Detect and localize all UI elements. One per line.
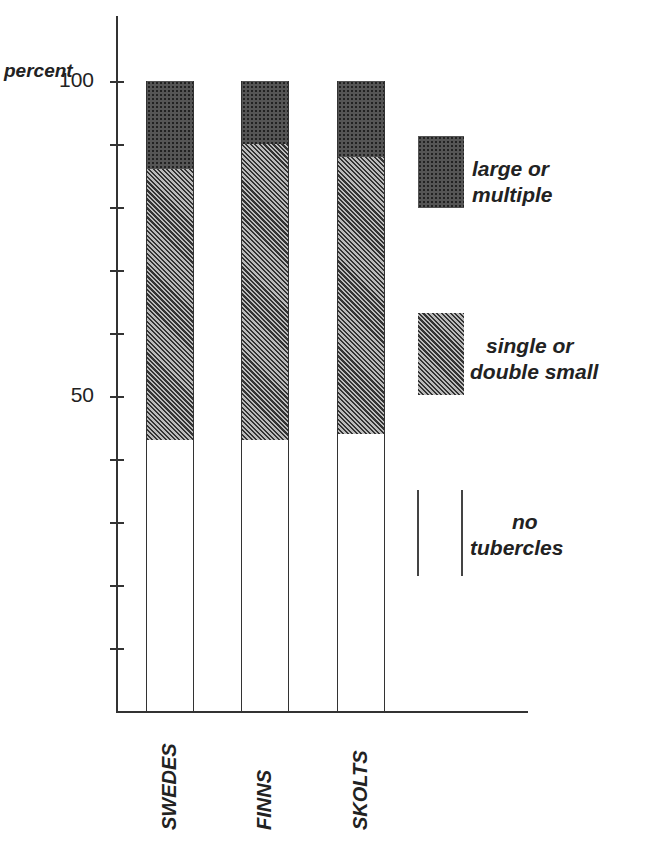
y-tick [110,81,124,83]
y-tick-label-50: 50 [34,383,94,407]
legend-label-none-line1: no [470,509,563,535]
y-tick-label-100: 100 [34,68,94,92]
y-tick [110,144,124,146]
legend-label-single: single or double small [470,333,598,385]
bar-segment-no-tubercles [242,440,288,711]
legend-label-single-line2: double small [470,359,598,385]
bar-segment-large-or-multiple [147,81,193,169]
y-tick [110,396,124,398]
legend-swatch-none-left [417,490,419,576]
y-tick [110,585,124,587]
y-axis [116,16,118,712]
legend-label-none-line2: tubercles [470,535,563,561]
bar-segment-single-or-double-small [338,157,384,434]
x-tick-label-skolts: SKOLTS [349,750,372,830]
y-tick [110,270,124,272]
y-tick [110,648,124,650]
legend-label-none: no tubercles [470,509,563,561]
bar-finns [241,81,289,711]
x-tick-label-finns: FINNS [253,770,276,830]
legend-swatch-none-right [461,490,463,576]
x-axis [116,711,528,713]
bar-swedes [146,81,194,711]
legend-swatch-single [418,313,464,395]
bar-segment-no-tubercles [147,440,193,711]
x-tick-label-swedes: SWEDES [158,743,181,830]
legend-label-large-line2: multiple [472,182,553,208]
bar-segment-no-tubercles [338,434,384,711]
bar-segment-large-or-multiple [242,81,288,144]
legend-swatch-large [418,136,464,208]
y-tick [110,522,124,524]
bar-segment-large-or-multiple [338,81,384,157]
y-tick [110,207,124,209]
legend-label-large: large or multiple [472,156,553,208]
legend-label-large-line1: large or [472,156,553,182]
bar-segment-single-or-double-small [147,169,193,440]
y-tick [110,459,124,461]
bar-segment-single-or-double-small [242,144,288,440]
y-tick [110,333,124,335]
legend-label-single-line1: single or [470,333,598,359]
bar-skolts [337,81,385,711]
